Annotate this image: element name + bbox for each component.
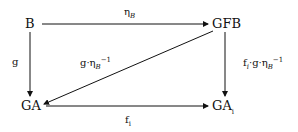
- label-g-eta-inverse: g·ηB−1: [80, 57, 111, 69]
- node-ga: GA: [21, 99, 41, 113]
- node-ga-label: GA: [21, 98, 41, 113]
- node-gai-subscript: i: [232, 108, 234, 116]
- label-g: g: [12, 56, 18, 68]
- node-gai-label: GA: [212, 98, 232, 113]
- arrow-gfb-to-ga: [44, 31, 213, 104]
- label-fi-g-eta-inverse: fi·g·ηB−1: [243, 57, 283, 69]
- node-b: B: [25, 17, 35, 31]
- node-b-label: B: [25, 16, 35, 31]
- node-gai: GAi: [212, 99, 234, 113]
- label-fi: fi: [125, 114, 131, 126]
- node-gfb: GFB: [212, 17, 241, 31]
- node-gfb-label: GFB: [212, 16, 241, 31]
- label-eta-b: ηB: [124, 6, 135, 18]
